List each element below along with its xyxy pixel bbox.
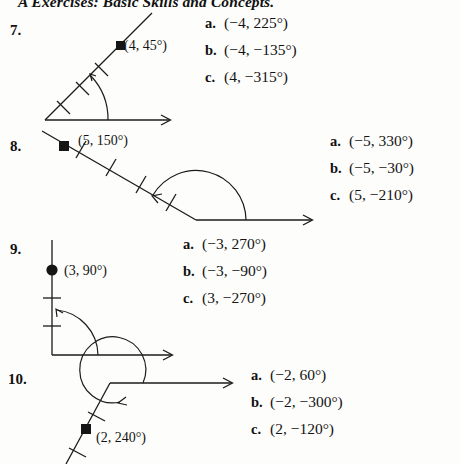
answer-value: (−3, 270°)	[202, 235, 266, 253]
answer-row: a. (−4, 225°)	[205, 14, 297, 41]
answer-row: c. (3, −270°)	[183, 289, 267, 316]
answer-letter: a.	[251, 367, 270, 384]
answer-letter: b.	[183, 263, 202, 280]
answer-letter: b.	[330, 160, 349, 177]
point-label-7: (4, 45°)	[124, 38, 167, 54]
answer-value: (−5, 330°)	[349, 132, 413, 150]
answer-row: a. (−2, 60°)	[251, 366, 343, 393]
answer-row: a. (−3, 270°)	[183, 235, 267, 262]
answer-value: (−5, −30°)	[349, 159, 414, 177]
answer-letter: c.	[183, 290, 202, 307]
diagram-10	[66, 337, 233, 464]
problem-number-9: 9.	[10, 241, 21, 258]
exercise-page: A Exercises: Basic Skills and Concepts. …	[0, 0, 460, 464]
answer-letter: b.	[251, 394, 270, 411]
answer-row: b. (−5, −30°)	[330, 159, 414, 186]
answers-10: a. (−2, 60°) b. (−2, −300°) c. (2, −120°…	[251, 366, 343, 447]
answer-value: (−2, −300°)	[270, 393, 343, 411]
diagram-9	[43, 240, 173, 360]
answer-letter: a.	[183, 236, 202, 253]
answer-value: (−4, 225°)	[224, 14, 288, 32]
point-label-8: (5, 150°)	[78, 133, 128, 149]
answer-letter: c.	[330, 187, 349, 204]
answer-value: (4, −315°)	[224, 68, 288, 86]
answer-row: b. (−3, −90°)	[183, 262, 267, 289]
answer-value: (5, −210°)	[349, 186, 413, 204]
answer-row: a. (−5, 330°)	[330, 132, 414, 159]
answer-row: c. (4, −315°)	[205, 68, 297, 95]
answer-row: c. (2, −120°)	[251, 420, 343, 447]
point-label-9: (3, 90°)	[64, 263, 107, 279]
point-label-10: (2, 240°)	[96, 430, 146, 446]
answer-letter: c.	[251, 421, 270, 438]
answer-letter: a.	[205, 15, 224, 32]
answer-row: b. (−2, −300°)	[251, 393, 343, 420]
page-header: A Exercises: Basic Skills and Concepts.	[18, 0, 274, 11]
answers-9: a. (−3, 270°) b. (−3, −90°) c. (3, −270°…	[183, 235, 267, 316]
problem-number-10: 10.	[8, 371, 27, 388]
answer-value: (3, −270°)	[202, 289, 266, 307]
answer-value: (−3, −90°)	[202, 262, 267, 280]
answer-letter: c.	[205, 69, 224, 86]
problem-number-7: 7.	[10, 22, 21, 39]
answer-row: b. (−4, −135°)	[205, 41, 297, 68]
answer-letter: b.	[205, 42, 224, 59]
answer-row: c. (5, −210°)	[330, 186, 414, 213]
answers-7: a. (−4, 225°) b. (−4, −135°) c. (4, −315…	[205, 14, 297, 95]
answer-value: (−2, 60°)	[270, 366, 326, 384]
answer-value: (−4, −135°)	[224, 41, 297, 59]
answer-value: (2, −120°)	[270, 420, 334, 438]
problem-number-8: 8.	[10, 138, 21, 155]
diagram-7	[45, 13, 171, 125]
answers-8: a. (−5, 330°) b. (−5, −30°) c. (5, −210°…	[330, 132, 414, 213]
answer-letter: a.	[330, 133, 349, 150]
